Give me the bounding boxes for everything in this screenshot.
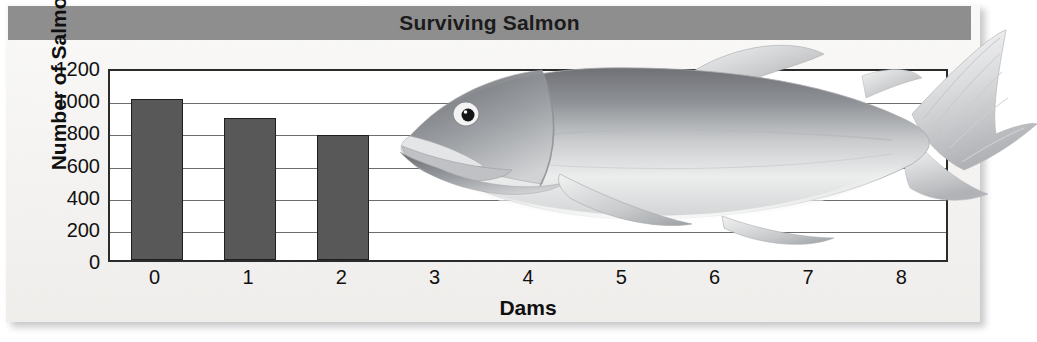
x-tick-label: 7 — [778, 266, 838, 289]
x-tick-label: 0 — [125, 266, 185, 289]
gridline — [110, 103, 946, 104]
y-tick-label: 200 — [4, 218, 100, 241]
chart-figure: Surviving Salmon Number of Salmon 020040… — [0, 0, 1037, 342]
chart-title-band: Surviving Salmon — [8, 6, 971, 40]
y-tick-label: 1200 — [4, 58, 100, 81]
plot-area — [108, 69, 948, 262]
y-tick-label: 1000 — [4, 90, 100, 113]
y-tick-label: 800 — [4, 122, 100, 145]
x-tick-label: 3 — [405, 266, 465, 289]
x-tick-label: 6 — [685, 266, 745, 289]
bar — [131, 99, 183, 260]
y-tick-label: 600 — [4, 154, 100, 177]
bar — [224, 118, 276, 260]
x-tick-label: 8 — [871, 266, 931, 289]
x-tick-label: 4 — [498, 266, 558, 289]
bar — [317, 135, 369, 260]
y-tick-label: 400 — [4, 186, 100, 209]
x-tick-label: 5 — [591, 266, 651, 289]
x-tick-label: 2 — [311, 266, 371, 289]
x-axis-title: Dams — [108, 296, 948, 320]
chart-title: Surviving Salmon — [399, 11, 580, 35]
y-tick-label: 0 — [4, 251, 100, 274]
x-tick-label: 1 — [218, 266, 278, 289]
